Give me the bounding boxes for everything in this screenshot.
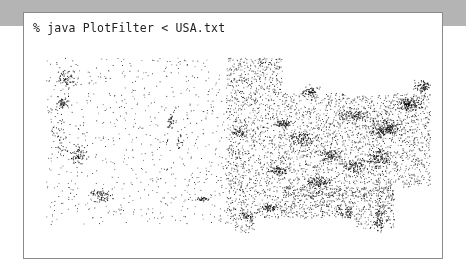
command-line: % java PlotFilter < USA.txt bbox=[33, 21, 225, 35]
terminal-window: % java PlotFilter < USA.txt bbox=[23, 12, 443, 259]
usa-dot-plot bbox=[24, 13, 444, 260]
